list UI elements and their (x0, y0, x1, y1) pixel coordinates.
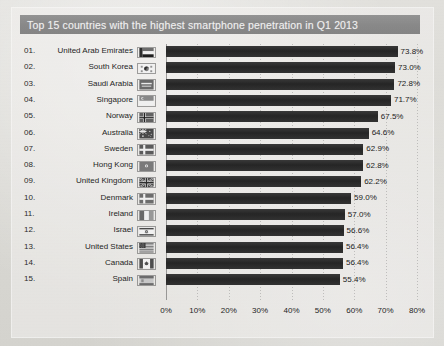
flag-icon-se (137, 144, 156, 156)
bar-rank-label: 07. (24, 144, 44, 153)
bar-category-label: Saudi Arabia (44, 79, 133, 88)
x-tick-label: 30% (252, 306, 268, 315)
flag-icon-ie (137, 210, 156, 222)
bar-value-label: 72.8% (397, 79, 420, 88)
x-tick-label: 10% (189, 306, 205, 315)
bar-category-label: Denmark (44, 193, 133, 202)
bar-rank-label: 09. (24, 176, 44, 185)
flag-icon-il (137, 226, 156, 238)
bar (166, 62, 395, 73)
bar-row: 04.Singapore71.7% (0, 93, 444, 109)
x-tick-label: 0% (160, 306, 172, 315)
bar-row: 09.United Kingdom62.2% (0, 174, 444, 190)
bar-rank-label: 05. (24, 111, 44, 120)
bar-category-label: United Kingdom (44, 176, 133, 185)
flag-icon-au (137, 128, 156, 140)
bar-rank-label: 04. (24, 95, 44, 104)
bar-value-label: 56.4% (346, 242, 369, 251)
flag-icon-no (137, 112, 156, 124)
x-tick-label: 70% (378, 306, 394, 315)
bar-row: 07.Sweden62.9% (0, 142, 444, 158)
bar (166, 193, 351, 204)
bar-value-label: 55.4% (343, 275, 366, 284)
x-tick-label: 60% (346, 306, 362, 315)
chart-title: Top 15 countries with the highest smartp… (20, 19, 358, 31)
bar-value-label: 62.2% (364, 177, 387, 186)
bar (166, 258, 343, 269)
bar-category-label: Australia (44, 128, 133, 137)
bar-category-label: Norway (44, 111, 133, 120)
flag-icon-es (137, 275, 156, 287)
bar-rank-label: 12. (24, 225, 44, 234)
bar-value-label: 64.6% (372, 128, 395, 137)
bar-category-label: Singapore (44, 95, 133, 104)
bar-value-label: 56.4% (346, 258, 369, 267)
bar-row: 11.Ireland57.0% (0, 207, 444, 223)
bar-row: 06.Australia64.6% (0, 126, 444, 142)
bar (166, 144, 363, 155)
bar-rank-label: 13. (24, 242, 44, 251)
bar-category-label: Sweden (44, 144, 133, 153)
flag-icon-dk (137, 193, 156, 205)
bar (166, 176, 361, 187)
bar-rank-label: 10. (24, 193, 44, 202)
bar (166, 46, 398, 57)
flag-icon-ca (137, 258, 156, 270)
bar-category-label: Ireland (44, 209, 133, 218)
bar-rank-label: 01. (24, 46, 44, 55)
flag-icon-sg (137, 95, 156, 107)
bar-row: 08.Hong Kong62.8% (0, 158, 444, 174)
bar-row: 13.United States56.4% (0, 240, 444, 256)
bar-value-label: 73.8% (401, 47, 424, 56)
bar-row: 14.Canada56.4% (0, 256, 444, 272)
flag-icon-gb (137, 177, 156, 189)
bar (166, 242, 343, 253)
bar-rank-label: 11. (24, 209, 44, 218)
bar-value-label: 62.8% (366, 161, 389, 170)
bar-value-label: 59.0% (354, 193, 377, 202)
bar-category-label: South Korea (44, 62, 133, 71)
bar (166, 225, 344, 236)
bar (166, 160, 363, 171)
bar-chart-plot: 01.United Arab Emirates73.8%02.South Kor… (0, 44, 444, 329)
bar-rank-label: 15. (24, 274, 44, 283)
bar-rank-label: 02. (24, 62, 44, 71)
chart-title-band: Top 15 countries with the highest smartp… (20, 15, 420, 34)
flag-icon-hk (137, 161, 156, 173)
flag-icon-ae (137, 47, 156, 59)
bar-row: 10.Denmark59.0% (0, 191, 444, 207)
bar-value-label: 57.0% (348, 210, 371, 219)
bar-row: 12.Israel56.6% (0, 223, 444, 239)
bar-category-label: Israel (44, 225, 133, 234)
bar-row: 02.South Korea73.0% (0, 60, 444, 76)
flag-icon-kr (137, 63, 156, 75)
bar-category-label: Canada (44, 258, 133, 267)
bar-rank-label: 06. (24, 128, 44, 137)
bar (166, 111, 378, 122)
bar-value-label: 71.7% (394, 95, 417, 104)
x-tick-label: 40% (283, 306, 299, 315)
bar (166, 79, 394, 90)
flag-icon-sa (137, 79, 156, 91)
bar (166, 95, 391, 106)
bar-row: 15.Spain55.4% (0, 272, 444, 288)
x-tick-label: 50% (315, 306, 331, 315)
bar-value-label: 67.5% (381, 112, 404, 121)
bar-rank-label: 14. (24, 258, 44, 267)
chart-figure: Top 15 countries with the highest smartp… (0, 0, 444, 346)
bar-category-label: Spain (44, 274, 133, 283)
bar-row: 05.Norway67.5% (0, 109, 444, 125)
bar-category-label: United Arab Emirates (44, 46, 133, 55)
x-tick-label: 20% (221, 306, 237, 315)
bar-row: 01.United Arab Emirates73.8% (0, 44, 444, 60)
bar (166, 274, 340, 285)
bar-value-label: 56.6% (347, 226, 370, 235)
bar (166, 209, 345, 220)
x-tick-label: 80% (409, 306, 425, 315)
bar-category-label: United States (44, 242, 133, 251)
bar-category-label: Hong Kong (44, 160, 133, 169)
bar-value-label: 62.9% (366, 144, 389, 153)
flag-icon-us (137, 242, 156, 254)
bar-value-label: 73.0% (398, 63, 421, 72)
x-axis-tick-labels: 0%10%20%30%40%50%60%70%80% (0, 306, 444, 322)
